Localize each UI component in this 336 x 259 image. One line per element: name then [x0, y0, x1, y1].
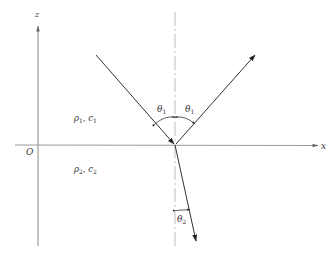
reflected-angle-label: θ1 — [185, 104, 194, 115]
origin-label: O — [26, 147, 34, 157]
refracted-angle-label: θ2 — [177, 214, 186, 225]
reflected-ray — [176, 55, 255, 144]
x-axis — [15, 145, 318, 146]
incident-angle-arc — [155, 117, 174, 124]
wave-reflection-refraction-diagram: z x O θ1 θ1 θ2 ρ1, c1 ρ2, c2 — [0, 0, 336, 259]
refracted-ray — [175, 145, 196, 241]
incident-ray — [96, 55, 174, 144]
x-axis-label: x — [321, 141, 326, 151]
lower-medium-label: ρ2, c2 — [73, 164, 97, 175]
upper-medium-label: ρ1, c1 — [73, 113, 97, 124]
z-axis-label: z — [34, 10, 40, 19]
refracted-angle-arc — [176, 210, 191, 211]
reflected-angle-arc — [176, 117, 195, 124]
incident-angle-label: θ1 — [157, 104, 166, 115]
